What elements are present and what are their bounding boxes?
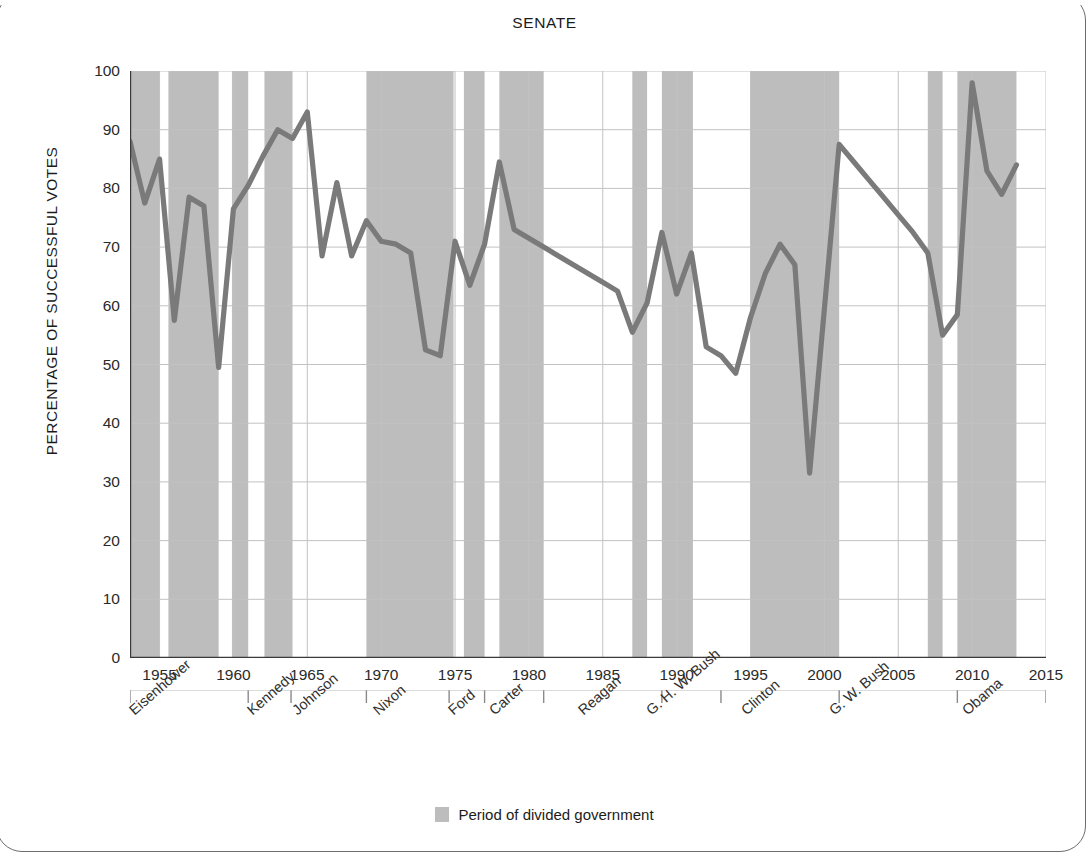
y-tick-label: 20 bbox=[74, 532, 120, 550]
y-tick-label: 60 bbox=[74, 297, 120, 315]
legend-swatch-divided-government bbox=[435, 807, 449, 822]
legend: Period of divided government bbox=[0, 806, 1089, 823]
legend-label: Period of divided government bbox=[458, 806, 653, 823]
y-tick-label: 100 bbox=[74, 62, 120, 80]
y-axis-title: PERCENTAGE OF SUCCESSFUL VOTES bbox=[43, 21, 61, 581]
y-tick-label: 30 bbox=[74, 473, 120, 491]
x-tick-label: 1960 bbox=[198, 666, 268, 684]
chart-title: SENATE bbox=[0, 14, 1089, 32]
y-tick-label: 70 bbox=[74, 238, 120, 256]
x-tick-label: 1975 bbox=[420, 666, 490, 684]
plot-area bbox=[130, 71, 1046, 658]
y-tick-label: 0 bbox=[74, 649, 120, 667]
x-tick-label: 1980 bbox=[494, 666, 564, 684]
figure-page: SENATE PERCENTAGE OF SUCCESSFUL VOTES 01… bbox=[0, 0, 1089, 864]
y-tick-label: 90 bbox=[74, 121, 120, 139]
figure-border-top-mask bbox=[0, 0, 1089, 5]
y-tick-label: 80 bbox=[74, 179, 120, 197]
y-tick-label: 10 bbox=[74, 590, 120, 608]
x-tick-label: 2000 bbox=[789, 666, 859, 684]
success-rate-line bbox=[130, 83, 1016, 473]
y-tick-label: 40 bbox=[74, 414, 120, 432]
x-tick-label: 2015 bbox=[1011, 666, 1081, 684]
x-tick-label: 1970 bbox=[346, 666, 416, 684]
chart-canvas bbox=[130, 71, 1046, 658]
y-tick-label: 50 bbox=[74, 356, 120, 374]
